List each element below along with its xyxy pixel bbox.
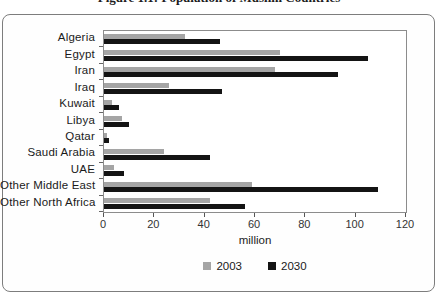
bar-2003-iran [104,67,275,72]
y-axis-tick [99,211,103,212]
x-tick-label-60: 60 [239,218,269,230]
bar-2003-kuwait [104,100,112,105]
bar-2030-saudi-arabia [104,155,210,160]
x-tick-label-0: 0 [88,218,118,230]
plot-area [103,30,407,213]
bar-2003-other-middle-east [104,182,252,187]
x-tick-mark-0 [103,213,104,217]
x-tick-mark-20 [153,213,154,217]
bar-2003-iraq [104,83,169,88]
category-label-uae: UAE [0,163,95,175]
category-label-other-north-africa: Other North Africa [0,196,95,208]
bar-2003-libya [104,116,122,121]
y-axis-tick [99,178,103,179]
bar-2003-egypt [104,50,280,55]
legend-item-2003: 2003 [203,260,242,272]
category-label-iran: Iran [0,64,95,76]
legend-label-2030: 2030 [281,260,307,272]
x-tick-label-100: 100 [340,218,370,230]
category-label-saudi-arabia: Saudi Arabia [0,146,95,158]
bar-2003-qatar [104,133,107,138]
category-label-qatar: Qatar [0,130,95,142]
bar-2003-algeria [104,34,185,39]
legend-swatch-2003 [203,262,211,270]
category-label-kuwait: Kuwait [0,97,95,109]
y-axis-tick [99,63,103,64]
x-tick-mark-120 [405,213,406,217]
category-label-algeria: Algeria [0,31,95,43]
bar-2030-other-north-africa [104,204,245,209]
category-label-egypt: Egypt [0,48,95,60]
x-tick-mark-40 [204,213,205,217]
y-axis-tick [99,96,103,97]
x-tick-label-40: 40 [189,218,219,230]
x-tick-mark-80 [304,213,305,217]
bar-2030-iraq [104,89,222,94]
x-tick-mark-100 [355,213,356,217]
bar-2030-iran [104,72,338,77]
y-axis-tick [99,145,103,146]
y-axis-tick [99,129,103,130]
bar-2030-other-middle-east [104,187,378,192]
category-label-other-middle-east: Other Middle East [0,179,95,191]
x-tick-label-120: 120 [390,218,420,230]
category-label-libya: Libya [0,114,95,126]
y-axis-category-labels: AlgeriaEgyptIranIraqKuwaitLibyaQatarSaud… [0,30,99,213]
y-axis-tick [99,162,103,163]
y-axis-tick [99,195,103,196]
bar-2030-libya [104,122,129,127]
bar-2030-egypt [104,56,368,61]
x-tick-mark-60 [254,213,255,217]
x-tick-label-80: 80 [289,218,319,230]
y-axis-tick [99,46,103,47]
bar-2030-uae [104,171,124,176]
legend-label-2003: 2003 [216,260,242,272]
y-axis-tick [99,112,103,113]
bar-2003-saudi-arabia [104,149,164,154]
bar-2003-other-north-africa [104,198,210,203]
category-label-iraq: Iraq [0,81,95,93]
bar-2003-uae [104,165,114,170]
bar-2030-algeria [104,39,220,44]
figure-title: Figure 1.1: Population of Muslim Countri… [0,0,438,6]
legend: 2003 2030 [103,260,407,272]
legend-item-2030: 2030 [268,260,307,272]
population-chart-figure: Figure 1.1: Population of Muslim Countri… [0,0,438,295]
bar-2030-qatar [104,138,109,143]
y-axis-tick [99,79,103,80]
bar-2030-kuwait [104,105,119,110]
x-axis-title: million [103,234,407,246]
legend-swatch-2030 [268,262,276,270]
x-tick-label-20: 20 [138,218,168,230]
